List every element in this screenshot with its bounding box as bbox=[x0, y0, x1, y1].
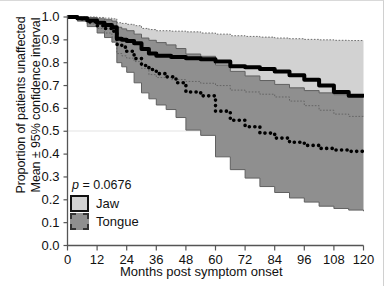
y-axis-title: Proportion of patients unaffected Mean ±… bbox=[12, 0, 46, 230]
chart-legend: p = 0.0676 Jaw Tongue bbox=[70, 178, 190, 230]
y-axis-title-line-1: Proportion of patients unaffected bbox=[14, 16, 29, 193]
legend-item-jaw[interactable]: Jaw bbox=[70, 195, 190, 212]
legend-item-tongue[interactable]: Tongue bbox=[70, 213, 190, 230]
y-tick-label: 0.0 bbox=[26, 238, 60, 253]
x-tick-label: 120 bbox=[344, 252, 384, 267]
p-value-symbol: p bbox=[72, 178, 79, 192]
legend-swatch-tongue-icon bbox=[70, 213, 89, 230]
y-axis-title-line-2: Mean ± 95% confidence interval bbox=[29, 18, 44, 193]
x-axis-title: Months post symptom onset bbox=[120, 264, 283, 279]
x-axis-ticks bbox=[68, 246, 364, 251]
legend-swatch-jaw-icon bbox=[70, 195, 89, 212]
p-value-number: = 0.0676 bbox=[79, 178, 131, 192]
figure-panel: 0.00.10.20.30.40.50.60.70.80.91.0 012243… bbox=[0, 0, 384, 286]
p-value-annotation: p = 0.0676 bbox=[72, 178, 190, 192]
legend-label-jaw: Jaw bbox=[96, 196, 119, 211]
legend-label-tongue: Tongue bbox=[96, 214, 139, 229]
